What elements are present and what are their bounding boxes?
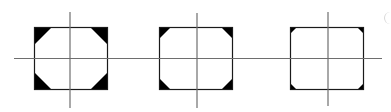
corner-triangle-top-left (159, 27, 171, 39)
edge-artifact-mark (384, 12, 391, 24)
corner-triangle-bottom-right (221, 78, 233, 90)
corner-triangle-top-left (34, 27, 52, 45)
corner-triangle-top-right (90, 27, 108, 45)
square-1 (34, 12, 108, 108)
square-2 (159, 13, 233, 108)
corner-triangle-top-right (221, 27, 233, 39)
diagram-canvas (0, 0, 391, 112)
corner-triangle-bottom-right (90, 72, 108, 90)
corner-triangle-bottom-left (159, 78, 171, 90)
corner-triangle-bottom-left (34, 72, 52, 90)
figures-group (34, 12, 364, 108)
